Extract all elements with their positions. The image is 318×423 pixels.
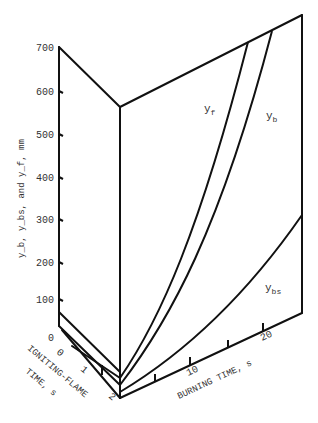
svg-text:0: 0	[48, 333, 54, 344]
svg-text:0: 0	[54, 347, 66, 359]
curve-y-bs	[120, 215, 302, 392]
svg-text:2: 2	[106, 391, 118, 403]
y-axis-title: y_b, y_bs, and y_f, mm	[17, 139, 27, 258]
series-label-y-bs: ybs	[265, 282, 281, 296]
series-label-y-b: yb	[266, 110, 278, 124]
chart-canvas: 700 600 500 400 300 200 100 0 y_b, y_bs,…	[0, 0, 318, 423]
svg-text:200: 200	[36, 258, 54, 269]
svg-text:300: 300	[36, 215, 54, 226]
svg-text:1: 1	[78, 364, 90, 376]
series-curves	[120, 31, 302, 392]
y-tick-labels: 700 600 500 400 300 200 100 0	[36, 43, 54, 344]
curve-y-b	[120, 31, 272, 385]
svg-text:700: 700	[36, 43, 54, 54]
svg-text:600: 600	[36, 87, 54, 98]
svg-text:100: 100	[36, 295, 54, 306]
svg-text:500: 500	[36, 130, 54, 141]
curve-y-f	[120, 42, 248, 378]
series-label-y-f: yf	[204, 103, 216, 117]
x-axis-title: BURNING TIME, s	[176, 358, 254, 401]
svg-text:20: 20	[259, 329, 275, 344]
svg-text:400: 400	[36, 173, 54, 184]
